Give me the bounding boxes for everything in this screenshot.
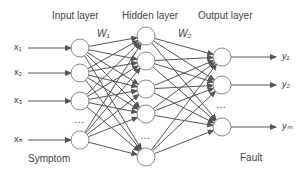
input-x3-label: x₃ (14, 95, 22, 105)
input-node (71, 39, 89, 57)
output-node (213, 76, 231, 94)
w1-connection (89, 142, 138, 155)
input-node (71, 64, 89, 82)
hidden-node (137, 105, 155, 123)
w1-connection (88, 78, 139, 110)
output-node (213, 118, 231, 136)
input-xn-label: xₙ (14, 134, 23, 144)
hidden-node (137, 52, 155, 70)
symptom-caption: Symptom (28, 153, 70, 164)
hidden-node (137, 27, 155, 45)
output-ym-label: yₘ (282, 121, 293, 131)
input-x1-label: x₁ (14, 42, 22, 52)
weight-w1-label: W₁ (97, 28, 110, 39)
hidden-node (137, 80, 155, 98)
input-node (71, 131, 89, 149)
input-node (71, 92, 89, 110)
output-ellipsis: … (216, 99, 226, 110)
w1-connection (88, 117, 137, 136)
output-node (213, 48, 231, 66)
output-y2-label: y₂ (282, 79, 290, 89)
output-layer-label: Output layer (198, 10, 252, 21)
nodes (71, 27, 231, 166)
input-x2-label: x₂ (14, 67, 22, 77)
w1-connection (88, 40, 138, 68)
fault-caption: Fault (240, 152, 262, 163)
w2-connection (155, 38, 214, 54)
hidden-node (137, 148, 155, 166)
input-ellipsis: … (74, 114, 84, 125)
input-layer-label: Input layer (52, 10, 99, 21)
hidden-layer-label: Hidden layer (122, 10, 178, 21)
w1-connection (86, 42, 139, 94)
network-diagram (0, 0, 302, 175)
output-y1-label: y₁ (282, 51, 289, 61)
hidden-ellipsis: … (140, 130, 150, 141)
weight-w2-label: W₂ (178, 28, 191, 39)
w2-connection (151, 64, 216, 150)
